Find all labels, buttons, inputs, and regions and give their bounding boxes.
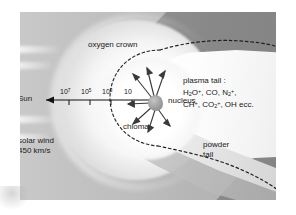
plasma-tail-lower-dashed-boundary: [158, 146, 276, 190]
charge-plus: +: [195, 100, 198, 106]
subscript-2: 2: [189, 91, 192, 97]
tick-label-1e5: 105: [81, 88, 91, 95]
comet-nucleus: [148, 95, 163, 111]
left-margin: [0, 0, 20, 215]
tick-label-1e1: 10: [124, 88, 132, 95]
tick-exponent-5: 5: [89, 88, 92, 93]
figure-canvas: 107 105 103 10 Sun oxygen crown nucleus …: [0, 0, 296, 215]
tick-exponent-7: 7: [68, 88, 71, 93]
tick-label-1e3: 103: [102, 88, 112, 95]
solar-wind-label-line1: solar wind: [20, 136, 54, 145]
chioma-label: chioma: [123, 122, 149, 131]
solar-wind-label-line2: 450 km/s: [20, 146, 50, 155]
plasma-tail-species-line2: CH+, CO2+, OH ecc.: [183, 100, 254, 110]
right-margin: [276, 0, 296, 215]
bottom-margin: [0, 200, 296, 215]
top-margin: [0, 0, 296, 12]
tick-label-1e7: 107: [60, 88, 70, 95]
charge-plus: +: [217, 100, 220, 106]
plasma-tail-upper-dashed-boundary: [160, 40, 276, 50]
sun-label: Sun: [20, 94, 32, 103]
powder-tail-label-line1: powder: [203, 140, 229, 149]
charge-plus: +: [198, 88, 201, 94]
bottom-left-shadow: [0, 186, 30, 210]
scale-axis-arrow: [46, 96, 152, 103]
oxygen-crown-label: oxygen crown: [88, 40, 137, 49]
plasma-tail-heading: plasma tail :: [183, 76, 226, 85]
charge-plus: +: [231, 88, 234, 94]
scale-axis-ticks: [69, 100, 132, 105]
plasma-tail-species-line1: H2O+, CO, N2+,: [183, 88, 236, 98]
powder-tail-label-line2: tail: [203, 150, 213, 159]
comet-diagram-panel: 107 105 103 10 Sun oxygen crown nucleus …: [20, 12, 276, 200]
tick-exponent-3: 3: [110, 88, 113, 93]
